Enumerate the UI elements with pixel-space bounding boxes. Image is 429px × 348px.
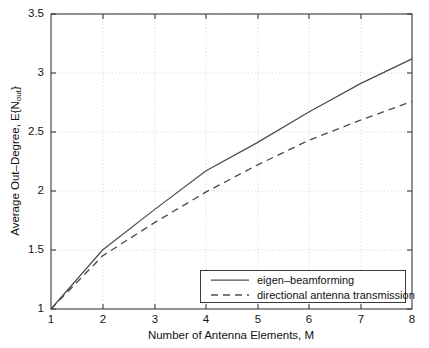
axes-frame <box>51 14 412 309</box>
y-axis-title: Average Out–Degree, E{Nout} <box>9 86 23 236</box>
xtick-label-4: 4 <box>203 314 209 326</box>
chart-figure: 3.5 3 2.5 2 1.5 1 1 2 3 4 5 6 7 8 Number… <box>0 0 429 348</box>
legend-item-eigen-beamforming: eigen–beamforming <box>201 272 405 288</box>
xtick-label-8: 8 <box>409 314 415 326</box>
xtick-label-7: 7 <box>358 314 364 326</box>
tick-marks <box>51 14 412 309</box>
legend: eigen–beamforming directional antenna tr… <box>200 270 406 303</box>
legend-item-directional-antenna-transmission: directional antenna transmission <box>201 287 405 303</box>
y-axis-title-tail: } <box>9 86 21 90</box>
xtick-label-2: 2 <box>100 314 106 326</box>
legend-label-eigen-beamforming: eigen–beamforming <box>257 275 354 286</box>
legend-line-dashed-icon <box>209 288 251 302</box>
ytick-label-3: 3 <box>4 67 44 79</box>
ytick-label-3.5: 3.5 <box>4 8 44 20</box>
grid-lines <box>51 14 412 309</box>
legend-line-solid-icon <box>209 273 251 287</box>
y-axis-title-main: Average Out–Degree, E{N <box>9 101 21 236</box>
y-axis-title-subscript: out <box>14 90 23 101</box>
ytick-label-1.5: 1.5 <box>4 244 44 256</box>
xtick-label-1: 1 <box>48 314 54 326</box>
legend-label-directional-antenna-transmission: directional antenna transmission <box>257 290 415 301</box>
x-axis-title: Number of Antenna Elements, M <box>148 330 314 342</box>
xtick-label-6: 6 <box>306 314 312 326</box>
xtick-label-3: 3 <box>152 314 158 326</box>
xtick-label-5: 5 <box>255 314 261 326</box>
ytick-label-1: 1 <box>4 303 44 315</box>
